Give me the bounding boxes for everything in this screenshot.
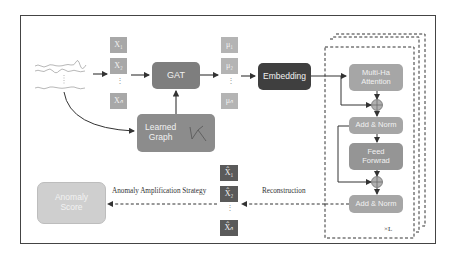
graph-icon <box>187 121 209 145</box>
feed-forward-label-line2: Forwrad <box>362 157 390 166</box>
anomaly-amplification-label: Anomaly Amplification Strategy <box>112 187 206 195</box>
xhat2-box: X̂₂ <box>220 186 238 202</box>
input-x1-box: X₁ <box>110 37 127 53</box>
add-norm-block-1: Add & Norm <box>349 117 403 134</box>
residual-add-node-1 <box>372 100 383 111</box>
xhat1-box: X̂₁ <box>220 165 238 181</box>
reconstruction-label: Reconstruction <box>262 187 306 195</box>
embedding-block: Embedding <box>258 63 311 90</box>
mun-box: μₙ <box>221 93 238 109</box>
learned-graph-label-line2: Graph <box>145 133 176 143</box>
ellipsis: ⋮ <box>226 206 232 209</box>
repeat-layers-label: ×L <box>384 225 392 233</box>
input-xn-box: Xₙ <box>110 93 127 109</box>
add-norm-block-2: Add & Norm <box>349 195 403 213</box>
ellipsis: ⋮ <box>116 79 122 82</box>
input-x2-box: X₂ <box>110 58 127 74</box>
anomaly-score-label-line2: Score <box>55 203 88 213</box>
feed-forward-block: Feed Forwrad <box>349 143 403 170</box>
anomaly-score-block: Anomaly Score <box>37 182 106 224</box>
ellipsis: ⋮ <box>227 79 233 82</box>
time-series-signals-icon <box>35 61 86 89</box>
multi-head-attention-block: Multi-Ha Attention <box>349 64 403 91</box>
xhatn-box: X̂ₙ <box>220 220 238 236</box>
learned-graph-block: Learned Graph <box>137 114 215 152</box>
mu2-box: μ₂ <box>221 58 238 74</box>
mu1-box: μ₁ <box>221 37 238 53</box>
gat-block: GAT <box>152 62 200 89</box>
residual-add-node-2 <box>372 177 383 188</box>
attention-label-line2: Attention <box>361 78 391 87</box>
